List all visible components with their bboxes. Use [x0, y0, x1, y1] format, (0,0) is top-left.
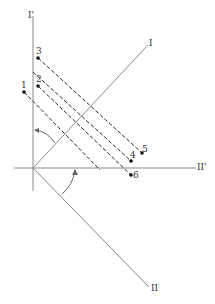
projection-line-4 — [33, 72, 131, 161]
axis-ii — [33, 168, 149, 287]
projection-line-3 — [38, 58, 142, 153]
label-axis-i: I — [149, 39, 153, 48]
diagram-canvas: I' II' I II 1 2 3 4 5 6 — [0, 0, 215, 304]
label-point-6: 6 — [133, 171, 139, 180]
arrowhead-lower — [72, 169, 78, 175]
label-axis-ii-prime: II' — [197, 163, 207, 172]
point-1 — [22, 90, 26, 94]
label-axis-i-prime: I' — [28, 11, 34, 20]
diagram-svg — [0, 0, 215, 304]
label-point-3: 3 — [36, 47, 42, 56]
label-point-4: 4 — [130, 151, 136, 160]
label-axis-ii: II — [151, 284, 158, 293]
projection-line-2 — [38, 86, 131, 175]
label-point-2: 2 — [36, 75, 42, 84]
label-point-1: 1 — [21, 81, 27, 90]
arrowhead-upper — [34, 128, 39, 133]
label-point-5: 5 — [142, 145, 148, 154]
point-2 — [36, 84, 40, 88]
point-3 — [36, 56, 40, 60]
